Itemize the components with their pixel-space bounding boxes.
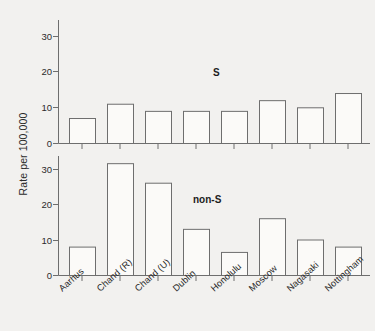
grouped-bar-chart: Rate per 100,000 30 20 10 0 S: [0, 0, 375, 331]
bars-group-non-s: [70, 164, 362, 276]
panel-non-s: 30 20 10 0 non-S: [0, 152, 375, 282]
s-bar-aarhus: [70, 119, 96, 144]
s-bar-honolulu: [222, 111, 248, 143]
s-bar-nagasaki: [298, 108, 324, 144]
s-bar-moscow: [260, 101, 286, 144]
panel-s: 30 20 10 0 S: [0, 0, 375, 150]
s-bar-chand-r: [108, 104, 134, 143]
bars-group-s: [70, 94, 362, 144]
panel-s-plot: [0, 0, 375, 150]
s-bar-dublin: [184, 111, 210, 143]
s-bar-nottingham: [336, 94, 362, 144]
non-s-bar-chand-r: [108, 164, 134, 276]
non-s-bar-dublin: [184, 229, 210, 275]
x-tick-marks-top: [82, 144, 348, 150]
s-bar-chand-u: [146, 111, 172, 143]
